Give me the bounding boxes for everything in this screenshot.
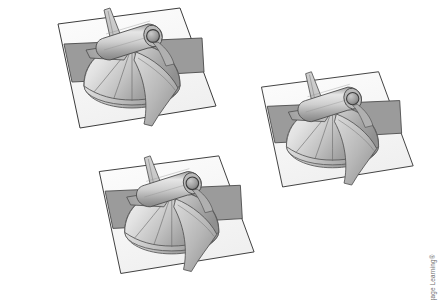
- illustration-canvas: [0, 0, 442, 300]
- copyright-notice: Copyright © 2015 Cengage Learning®: [428, 146, 438, 276]
- figure-root: Copyright © 2015 Cengage Learning®: [0, 0, 442, 300]
